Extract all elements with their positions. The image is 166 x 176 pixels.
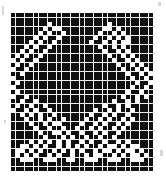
grid-cell[interactable] (108, 153, 112, 157)
grid-cell[interactable] (20, 27, 24, 31)
grid-cell[interactable] (39, 45, 43, 49)
grid-cell[interactable] (140, 58, 144, 62)
grid-cell[interactable] (135, 95, 139, 99)
grid-cell[interactable] (20, 49, 24, 53)
grid-cell[interactable] (117, 76, 121, 80)
grid-cell[interactable] (108, 27, 112, 31)
grid-cell[interactable] (108, 140, 112, 144)
grid-cell[interactable] (52, 122, 56, 126)
grid-cell[interactable] (25, 131, 29, 135)
grid-cell[interactable] (144, 81, 148, 85)
grid-cell[interactable] (16, 126, 20, 130)
grid-cell[interactable] (52, 40, 56, 44)
grid-cell[interactable] (20, 36, 24, 40)
grid-cell[interactable] (108, 13, 112, 17)
grid-cell[interactable] (98, 126, 102, 130)
grid-cell[interactable] (121, 99, 125, 103)
grid-cell[interactable] (103, 99, 107, 103)
grid-cell[interactable] (66, 113, 70, 117)
grid-cell[interactable] (75, 95, 79, 99)
grid-cell[interactable] (112, 158, 116, 162)
grid-cell[interactable] (98, 27, 102, 31)
grid-cell[interactable] (34, 81, 38, 85)
grid-cell[interactable] (117, 36, 121, 40)
grid-cell[interactable] (48, 85, 52, 89)
grid-cell[interactable] (80, 67, 84, 71)
grid-cell[interactable] (16, 54, 20, 58)
grid-cell[interactable] (89, 135, 93, 139)
grid-cell[interactable] (29, 131, 33, 135)
grid-cell[interactable] (43, 85, 47, 89)
grid-cell[interactable] (39, 135, 43, 139)
grid-cell[interactable] (34, 117, 38, 121)
grid-cell[interactable] (52, 81, 56, 85)
grid-cell[interactable] (66, 167, 70, 171)
grid-cell[interactable] (135, 99, 139, 103)
grid-cell[interactable] (52, 135, 56, 139)
grid-cell[interactable] (57, 135, 61, 139)
grid-cell[interactable] (80, 144, 84, 148)
grid-cell[interactable] (117, 40, 121, 44)
grid-cell[interactable] (144, 149, 148, 153)
grid-cell[interactable] (121, 72, 125, 76)
grid-cell[interactable] (29, 95, 33, 99)
grid-cell[interactable] (117, 140, 121, 144)
grid-cell[interactable] (62, 117, 66, 121)
grid-cell[interactable] (16, 49, 20, 53)
grid-cell[interactable] (75, 85, 79, 89)
grid-cell[interactable] (66, 108, 70, 112)
grid-cell[interactable] (52, 158, 56, 162)
grid-cell[interactable] (117, 153, 121, 157)
grid-cell[interactable] (108, 126, 112, 130)
grid-cell[interactable] (98, 67, 102, 71)
grid-cell[interactable] (94, 58, 98, 62)
grid-cell[interactable] (149, 113, 153, 117)
grid-cell[interactable] (29, 140, 33, 144)
grid-cell[interactable] (121, 108, 125, 112)
grid-cell[interactable] (126, 67, 130, 71)
grid-cell[interactable] (52, 45, 56, 49)
grid-cell[interactable] (149, 135, 153, 139)
grid-cell[interactable] (131, 22, 135, 26)
grid-cell[interactable] (11, 135, 15, 139)
grid-cell[interactable] (43, 131, 47, 135)
grid-cell[interactable] (131, 131, 135, 135)
grid-cell[interactable] (108, 95, 112, 99)
grid-cell[interactable] (34, 63, 38, 67)
grid-cell[interactable] (34, 27, 38, 31)
grid-cell[interactable] (89, 122, 93, 126)
grid-cell[interactable] (16, 144, 20, 148)
grid-cell[interactable] (89, 72, 93, 76)
grid-cell[interactable] (20, 95, 24, 99)
grid-cell[interactable] (85, 31, 89, 35)
grid-cell[interactable] (112, 153, 116, 157)
grid-cell[interactable] (144, 95, 148, 99)
grid-cell[interactable] (39, 13, 43, 17)
grid-cell[interactable] (144, 90, 148, 94)
grid-cell[interactable] (11, 22, 15, 26)
grid-cell[interactable] (66, 54, 70, 58)
grid-cell[interactable] (103, 95, 107, 99)
grid-cell[interactable] (34, 31, 38, 35)
grid-cell[interactable] (149, 104, 153, 108)
grid-cell[interactable] (29, 135, 33, 139)
grid-cell[interactable] (94, 90, 98, 94)
grid-cell[interactable] (20, 22, 24, 26)
grid-cell[interactable] (48, 140, 52, 144)
grid-cell[interactable] (52, 18, 56, 22)
grid-cell[interactable] (121, 63, 125, 67)
grid-cell[interactable] (117, 31, 121, 35)
grid-cell[interactable] (66, 149, 70, 153)
grid-cell[interactable] (121, 135, 125, 139)
grid-cell[interactable] (85, 54, 89, 58)
grid-cell[interactable] (89, 54, 93, 58)
grid-cell[interactable] (94, 140, 98, 144)
grid-cell[interactable] (89, 131, 93, 135)
grid-cell[interactable] (52, 36, 56, 40)
grid-cell[interactable] (48, 149, 52, 153)
grid-cell[interactable] (85, 144, 89, 148)
grid-cell[interactable] (29, 22, 33, 26)
grid-cell[interactable] (34, 126, 38, 130)
grid-cell[interactable] (62, 36, 66, 40)
grid-cell[interactable] (131, 18, 135, 22)
